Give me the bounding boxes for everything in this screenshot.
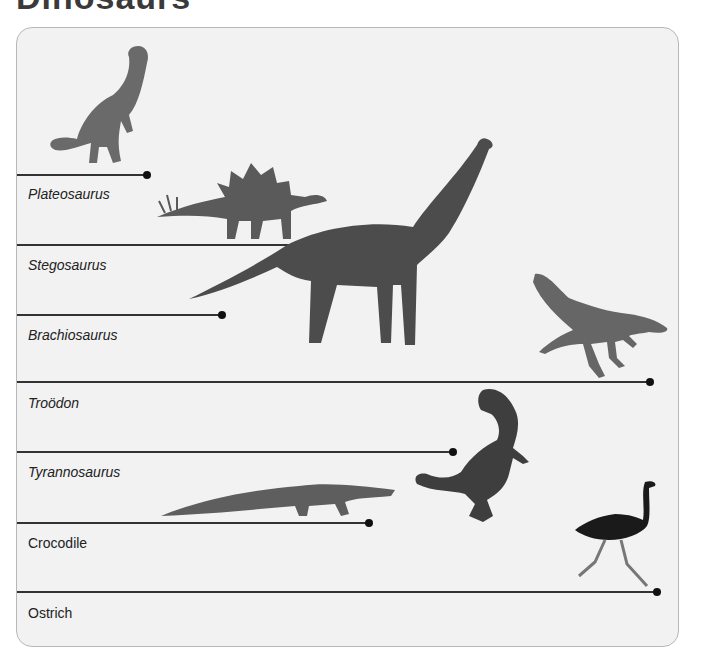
plateosaurus-label: Plateosaurus (28, 186, 110, 202)
tyrannosaurus-height-marker (449, 448, 457, 456)
tyrannosaurus-height-line (17, 451, 453, 453)
ostrich-height-marker (653, 588, 661, 596)
brachiosaurus-height-marker (218, 311, 226, 319)
ostrich-height-line (17, 591, 657, 593)
size-comparison-card: Plateosaurus Stegosaurus Brachiosaurus T… (16, 27, 679, 647)
plateosaurus-illustration (47, 43, 157, 173)
ostrich-illustration (565, 478, 660, 593)
troodon-height-line (17, 381, 650, 383)
brachiosaurus-illustration (187, 135, 497, 350)
troodon-illustration (529, 272, 674, 382)
brachiosaurus-label: Brachiosaurus (28, 327, 118, 343)
crocodile-height-line (17, 522, 369, 524)
tyrannosaurus-illustration (413, 386, 543, 531)
ostrich-label: Ostrich (28, 605, 72, 621)
stegosaurus-label: Stegosaurus (28, 257, 107, 273)
crocodile-label: Crocodile (28, 535, 87, 551)
crocodile-height-marker (365, 519, 373, 527)
troodon-label: Troödon (28, 395, 79, 411)
crocodile-illustration (159, 476, 399, 521)
plateosaurus-height-marker (143, 171, 151, 179)
tyrannosaurus-label: Tyrannosaurus (28, 464, 120, 480)
page-title: Dinosaurs (16, 0, 191, 17)
brachiosaurus-height-line (17, 314, 222, 316)
plateosaurus-height-line (17, 174, 147, 176)
troodon-height-marker (646, 378, 654, 386)
